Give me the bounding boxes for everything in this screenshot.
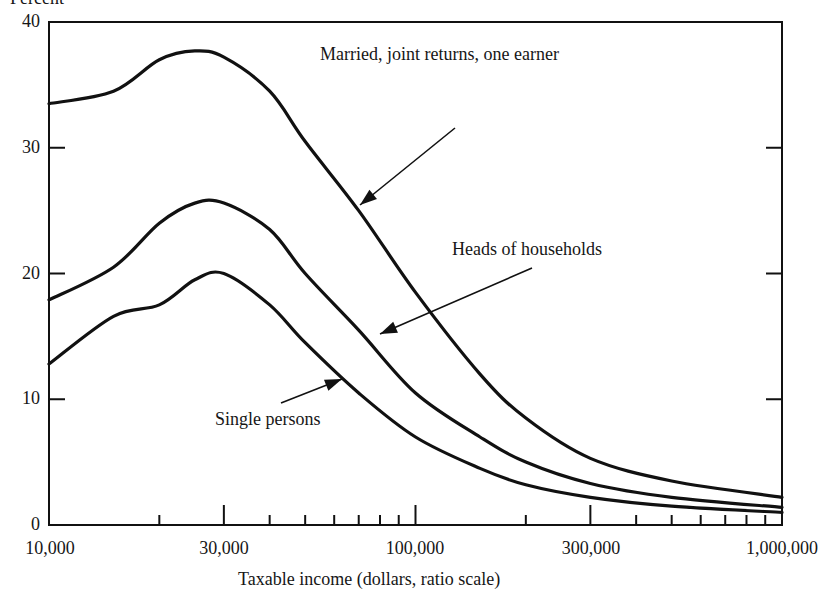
arrow-heads-head: [380, 322, 398, 334]
x-tick-label-100000: 100,000: [386, 538, 445, 559]
axis-ticks: [49, 148, 782, 525]
curve-heads-of-households: [49, 200, 782, 507]
arrow-heads: [380, 268, 532, 334]
annotation-heads: Heads of households: [452, 239, 602, 260]
annotation-married: Married, joint returns, one earner: [320, 44, 559, 65]
y-tick-label-40: 40: [4, 11, 40, 32]
chart-canvas: [0, 0, 827, 601]
x-tick-label-30000: 30,000: [199, 538, 249, 559]
plot-frame: [49, 22, 782, 525]
x-tick-label-300000: 300,000: [562, 538, 621, 559]
x-axis-label: Taxable income (dollars, ratio scale): [238, 569, 500, 590]
annotation-arrows: [281, 128, 532, 403]
y-tick-label-10: 10: [4, 388, 40, 409]
curve-married: [49, 51, 782, 498]
x-tick-label-10000: 10,000: [25, 538, 75, 559]
y-axis-label: Percent: [10, 0, 64, 9]
annotation-single: Single persons: [215, 409, 321, 430]
y-tick-label-20: 20: [4, 263, 40, 284]
data-curves: [49, 51, 782, 513]
arrow-married-head: [360, 190, 377, 205]
y-tick-label-30: 30: [4, 137, 40, 158]
arrow-single-head: [324, 379, 342, 391]
y-tick-label-0: 0: [4, 514, 40, 535]
x-tick-label-1000000: 1,000,000: [746, 538, 818, 559]
plot-border: [49, 22, 782, 525]
arrow-married: [360, 128, 455, 205]
